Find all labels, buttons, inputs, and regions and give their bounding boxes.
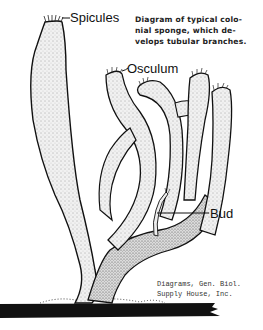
credit-line: Supply House, Inc. xyxy=(157,289,241,299)
caption-line: nial sponge, which de- xyxy=(135,25,247,36)
sponge-branches xyxy=(88,67,232,303)
source-credit: Diagrams, Gen. Biol. Supply House, Inc. xyxy=(157,279,241,299)
caption-line: velops tubular branches. xyxy=(135,36,247,47)
osculum-label: Osculum xyxy=(127,62,178,75)
caption-line: Diagram of typical colo- xyxy=(135,14,247,25)
diagram-caption: Diagram of typical colo- nial sponge, wh… xyxy=(135,14,247,47)
credit-line: Diagrams, Gen. Biol. xyxy=(157,279,241,289)
sponge-tube-main xyxy=(31,15,97,303)
spicules-label: Spicules xyxy=(70,11,119,24)
bud-label: Bud xyxy=(210,207,233,220)
